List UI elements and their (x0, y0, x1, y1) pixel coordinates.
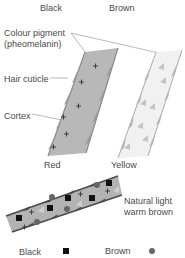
red-hair-strand (48, 48, 118, 156)
legend-black-square-icon (63, 248, 69, 254)
natural-warm-brown-hair-strand (6, 176, 122, 232)
yellow-hair-strand (118, 50, 182, 158)
hair-pigment-figure (0, 0, 185, 258)
legend-brown-circle-icon (149, 248, 155, 254)
leader-line-cortex (32, 114, 62, 120)
